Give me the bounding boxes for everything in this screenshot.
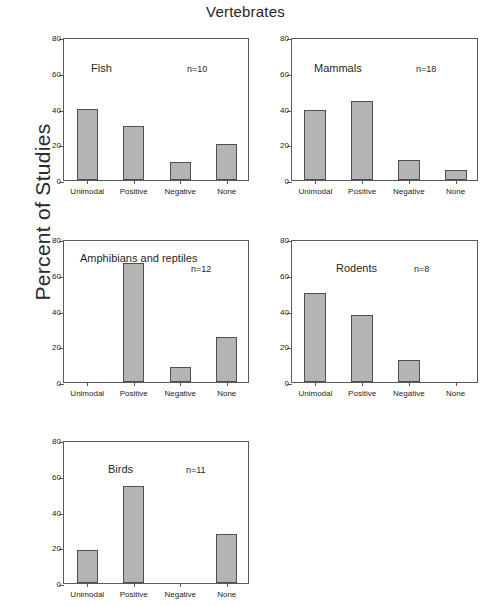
y-tick-label: 60 [280, 273, 289, 281]
bar-negative [170, 367, 191, 382]
panel-title: Rodents [336, 262, 377, 274]
bar-positive [123, 486, 144, 583]
y-tick-label: 40 [52, 510, 61, 518]
plot-area: 020406080UnimodalPositiveNegativeNone [291, 38, 478, 181]
bar-positive [351, 315, 373, 382]
bar-none [216, 534, 237, 583]
x-tick-mark [315, 382, 316, 386]
x-tick-label-positive: Positive [120, 188, 148, 196]
y-tick-label: 60 [52, 71, 61, 79]
x-tick-mark [87, 382, 88, 386]
y-tick-label: 80 [52, 438, 61, 446]
bar-none [216, 144, 237, 180]
x-tick-mark [180, 583, 181, 587]
bar-none [216, 337, 237, 382]
x-tick-label-none: None [217, 188, 236, 196]
bar-negative [170, 162, 191, 180]
x-tick-label-none: None [446, 188, 465, 196]
panel-title: Amphibians and reptiles [80, 252, 197, 264]
y-tick-label: 20 [52, 344, 61, 352]
y-tick-label: 0 [285, 380, 289, 388]
x-tick-mark [87, 180, 88, 184]
y-axis-label: Percent of Studies [26, 97, 60, 327]
y-tick-label: 80 [52, 35, 61, 43]
panel-rodents: 020406080UnimodalPositiveNegativeNoneRod… [291, 240, 478, 383]
y-tick-label: 20 [280, 344, 289, 352]
panel-sample-size: n=12 [191, 264, 211, 274]
x-tick-label-unimodal: Unimodal [298, 188, 332, 196]
x-tick-label-positive: Positive [120, 591, 148, 599]
y-tick-label: 60 [280, 71, 289, 79]
plot-area: 020406080UnimodalPositiveNegativeNone [63, 441, 249, 584]
x-tick-mark [134, 583, 135, 587]
bar-unimodal [304, 110, 326, 180]
y-tick-label: 80 [280, 237, 289, 245]
x-tick-label-unimodal: Unimodal [298, 390, 332, 398]
x-tick-mark [409, 382, 410, 386]
y-tick-label: 0 [57, 178, 61, 186]
panel-title: Mammals [314, 62, 362, 74]
bar-negative [398, 360, 420, 382]
y-tick-label: 40 [52, 309, 61, 317]
panel-amphibians-and-reptiles: 020406080UnimodalPositiveNegativeNoneAmp… [63, 240, 249, 383]
bar-none [445, 170, 467, 180]
bar-positive [351, 101, 373, 180]
y-tick-label: 40 [52, 107, 61, 115]
x-tick-mark [456, 180, 457, 184]
figure-title: Vertebrates [0, 3, 491, 20]
bar-unimodal [77, 550, 98, 583]
plot-area: 020406080UnimodalPositiveNegativeNone [291, 240, 478, 383]
bar-negative [398, 160, 420, 180]
x-tick-label-negative: Negative [393, 188, 425, 196]
x-tick-mark [362, 180, 363, 184]
x-tick-mark [227, 180, 228, 184]
x-tick-mark [180, 382, 181, 386]
x-tick-label-positive: Positive [120, 390, 148, 398]
panel-mammals: 020406080UnimodalPositiveNegativeNoneMam… [291, 38, 478, 181]
y-tick-label: 20 [52, 545, 61, 553]
x-tick-label-negative: Negative [393, 390, 425, 398]
y-tick-label: 40 [280, 309, 289, 317]
x-tick-label-negative: Negative [164, 390, 196, 398]
y-tick-label: 20 [280, 142, 289, 150]
y-tick-label: 20 [52, 142, 61, 150]
bar-unimodal [304, 293, 326, 382]
panel-title: Fish [91, 62, 112, 74]
plot-area: 020406080UnimodalPositiveNegativeNone [63, 38, 249, 181]
panel-fish: 020406080UnimodalPositiveNegativeNoneFis… [63, 38, 249, 181]
x-tick-label-positive: Positive [348, 390, 376, 398]
x-tick-mark [134, 382, 135, 386]
panel-sample-size: n=11 [186, 465, 206, 475]
x-tick-mark [362, 382, 363, 386]
x-tick-mark [315, 180, 316, 184]
panel-sample-size: n=18 [416, 64, 436, 74]
x-tick-label-none: None [217, 390, 236, 398]
y-tick-label: 60 [52, 474, 61, 482]
x-tick-label-negative: Negative [164, 591, 196, 599]
y-tick-label: 0 [57, 581, 61, 589]
x-tick-label-positive: Positive [348, 188, 376, 196]
y-tick-label: 0 [285, 178, 289, 186]
y-tick-label: 80 [52, 237, 61, 245]
x-tick-mark [227, 583, 228, 587]
bar-unimodal [77, 109, 98, 181]
x-tick-label-none: None [446, 390, 465, 398]
y-tick-label: 0 [57, 380, 61, 388]
panel-sample-size: n=10 [187, 64, 207, 74]
x-tick-label-negative: Negative [164, 188, 196, 196]
x-tick-label-unimodal: Unimodal [70, 188, 104, 196]
y-tick-label: 40 [280, 107, 289, 115]
bar-positive [123, 126, 144, 180]
x-tick-mark [87, 583, 88, 587]
x-tick-mark [134, 180, 135, 184]
x-tick-mark [409, 180, 410, 184]
panel-sample-size: n=8 [414, 264, 429, 274]
panel-birds: 020406080UnimodalPositiveNegativeNoneBir… [63, 441, 249, 584]
x-tick-mark [227, 382, 228, 386]
y-tick-label: 60 [52, 273, 61, 281]
panel-title: Birds [108, 463, 133, 475]
bar-positive [123, 263, 144, 382]
x-tick-mark [180, 180, 181, 184]
x-tick-label-unimodal: Unimodal [70, 390, 104, 398]
x-tick-label-none: None [217, 591, 236, 599]
